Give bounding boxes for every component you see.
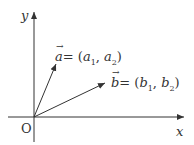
y-axis-label: y bbox=[21, 9, 28, 22]
vector-b bbox=[34, 83, 105, 117]
vector-diagram: y x O →a= (a1, a2) →b= (b1, b2) bbox=[0, 0, 194, 145]
arrow-over-icon: → bbox=[56, 42, 64, 51]
vector-b-label: →b= (b1, b2) bbox=[111, 76, 180, 93]
arrow-over-icon: → bbox=[112, 68, 120, 77]
vector-a bbox=[34, 64, 56, 117]
origin-label: O bbox=[21, 122, 32, 135]
vector-a-label: →a= (a1, a2) bbox=[55, 50, 122, 67]
x-axis-label: x bbox=[176, 125, 183, 138]
